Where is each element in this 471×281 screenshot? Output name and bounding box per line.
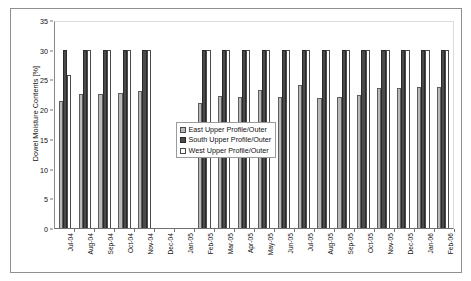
x-tick-mark (454, 229, 455, 232)
legend-label-south: South Upper Profile/Outer (189, 136, 272, 144)
bar-group (393, 22, 413, 228)
x-tick-mark (274, 229, 275, 232)
bar-west (107, 50, 111, 228)
x-tick-label: Feb-05 (207, 233, 214, 254)
y-tick-mark (50, 199, 53, 200)
bar-group (55, 22, 75, 228)
bar-west (405, 50, 409, 228)
x-tick-mark (394, 229, 395, 232)
y-tick-label: 15 (20, 135, 48, 144)
x-tick-mark (414, 229, 415, 232)
y-tick-label: 30 (20, 46, 48, 55)
y-tick-label: 35 (20, 17, 48, 26)
y-tick-label: 5 (20, 195, 48, 204)
x-tick-label: Aug-05 (327, 233, 334, 255)
x-tick-label: Mar-05 (227, 233, 234, 254)
x-tick-label: May-05 (267, 233, 274, 255)
bar-group (115, 22, 135, 228)
x-tick-mark (94, 229, 95, 232)
bar-west (147, 50, 151, 228)
x-tick-mark (254, 229, 255, 232)
x-tick-mark (234, 229, 235, 232)
x-tick-mark (214, 229, 215, 232)
x-tick-label: Jul-05 (307, 233, 314, 251)
chart-legend: East Upper Profile/Outer South Upper Pro… (176, 122, 276, 158)
y-tick-label: 0 (20, 225, 48, 234)
x-tick-mark (194, 229, 195, 232)
bar-group (274, 22, 294, 228)
x-tick-label: Aug-04 (87, 233, 94, 255)
bar-group (95, 22, 115, 228)
bar-group (135, 22, 155, 228)
y-tick-label: 10 (20, 165, 48, 174)
x-tick-label: Jan-05 (187, 233, 194, 253)
legend-swatch-east-icon (180, 127, 186, 133)
legend-label-east: East Upper Profile/Outer (189, 126, 267, 134)
y-tick-mark (50, 110, 53, 111)
bar-group (75, 22, 95, 228)
x-tick-mark (134, 229, 135, 232)
y-axis-tick-labels: 05101520253035 (19, 21, 53, 229)
x-tick-mark (434, 229, 435, 232)
x-tick-mark (354, 229, 355, 232)
legend-swatch-west-icon (180, 148, 186, 154)
x-tick-label: Nov-04 (147, 233, 154, 255)
legend-item-south: South Upper Profile/Outer (180, 136, 271, 145)
x-tick-mark (334, 229, 335, 232)
x-tick-mark (154, 229, 155, 232)
bar-group (413, 22, 433, 228)
x-tick-mark (314, 229, 315, 232)
y-tick-mark (50, 80, 53, 81)
x-tick-label: Jun-05 (287, 233, 294, 253)
bar-west (67, 75, 71, 228)
y-tick-mark (50, 139, 53, 140)
bar-west (386, 50, 390, 228)
bar-group (294, 22, 314, 228)
x-tick-label: Sep-05 (347, 233, 354, 255)
x-tick-label: Oct-04 (127, 233, 134, 253)
bar-west (346, 50, 350, 228)
bar-group (155, 22, 175, 228)
bar-west (326, 50, 330, 228)
y-tick-mark (50, 229, 53, 230)
chart-plot-wrapper: Dowel Moisture Contents [%] 051015202530… (11, 9, 461, 272)
legend-swatch-south-icon (180, 137, 186, 143)
bar-west (127, 50, 131, 228)
x-tick-mark (174, 229, 175, 232)
x-tick-label: Feb-06 (447, 233, 454, 254)
bar-group (433, 22, 453, 228)
bar-west (425, 50, 429, 228)
y-tick-mark (50, 169, 53, 170)
x-tick-label: Sep-04 (107, 233, 114, 255)
legend-item-west: West Upper Profile/Outer (180, 146, 271, 155)
x-tick-label: Nov-05 (387, 233, 394, 255)
bar-group (354, 22, 374, 228)
x-tick-mark (74, 229, 75, 232)
x-tick-label: Jul-04 (67, 233, 74, 251)
x-tick-label: Oct-05 (367, 233, 374, 253)
y-tick-mark (50, 50, 53, 51)
bar-west (87, 50, 91, 228)
y-tick-mark (50, 21, 53, 22)
y-tick-label: 20 (20, 106, 48, 115)
x-axis-tick-labels: Jul-04Aug-04Sep-04Oct-04Nov-04Dec-04Jan-… (54, 233, 454, 273)
bar-west (366, 50, 370, 228)
legend-item-east: East Upper Profile/Outer (180, 125, 271, 134)
chart-frame: Dowel Moisture Contents [%] 051015202530… (10, 8, 462, 273)
bar-group (374, 22, 394, 228)
bar-group (314, 22, 334, 228)
x-tick-mark (294, 229, 295, 232)
x-tick-label: Apr-05 (247, 233, 254, 253)
y-tick-label: 25 (20, 76, 48, 85)
bar-west (286, 50, 290, 228)
bar-west (306, 50, 310, 228)
x-tick-label: Dec-04 (167, 233, 174, 255)
x-tick-mark (114, 229, 115, 232)
x-tick-label: Jan-06 (427, 233, 434, 253)
legend-label-west: West Upper Profile/Outer (189, 147, 269, 155)
x-tick-mark (374, 229, 375, 232)
bar-west (445, 50, 449, 228)
bar-group (334, 22, 354, 228)
x-tick-label: Dec-05 (407, 233, 414, 255)
